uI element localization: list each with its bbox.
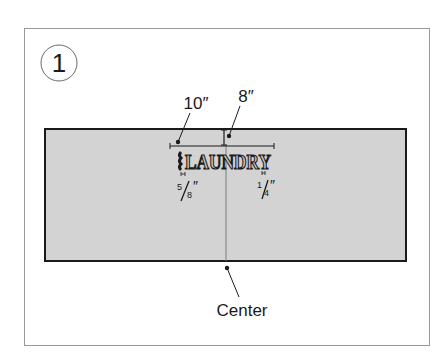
center-leader-line xyxy=(227,268,239,297)
left-fraction-numerator: 5 xyxy=(177,182,182,192)
left-fraction-denominator: 8 xyxy=(187,190,192,200)
center-label: Center xyxy=(216,301,267,320)
width-label: 10″ xyxy=(184,94,209,113)
width-leader-dot xyxy=(176,140,180,144)
diagram-canvas: 1 10″ 8″ LAUNDRY 5 8 ″ xyxy=(0,0,442,364)
offset-label: 8″ xyxy=(238,87,253,106)
step-number: 1 xyxy=(52,48,66,78)
right-fraction-numerator: 1 xyxy=(257,180,262,190)
right-fraction-unit: ″ xyxy=(270,177,275,193)
clothespin-icon xyxy=(180,152,182,170)
right-fraction-denominator: 4 xyxy=(264,188,269,198)
laundry-word: LAUNDRY xyxy=(185,151,271,173)
offset-leader-dot xyxy=(227,134,231,138)
laundry-applique: LAUNDRY xyxy=(180,151,272,173)
step-badge: 1 xyxy=(41,45,77,81)
left-fraction-unit: ″ xyxy=(193,178,198,194)
